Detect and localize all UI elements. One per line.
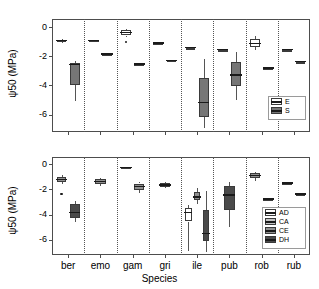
x-tick-mark xyxy=(100,255,101,258)
legend-bottom[interactable]: ADCACEDH xyxy=(262,207,306,249)
legend-row: AD xyxy=(263,208,305,217)
x-tick-mark xyxy=(133,132,134,135)
legend-key-swatch xyxy=(265,209,276,216)
median-line xyxy=(249,175,260,177)
median-line xyxy=(295,61,306,63)
legend-key-swatch xyxy=(271,98,282,105)
whisker-upper xyxy=(236,52,237,62)
x-tick-label: ber xyxy=(52,260,84,271)
whisker-lower xyxy=(75,85,76,102)
median-line xyxy=(295,193,306,195)
legend-label: E xyxy=(285,98,290,105)
legend-key-swatch xyxy=(265,227,276,234)
median-line xyxy=(134,63,145,65)
whisker-upper xyxy=(206,191,207,210)
median-line xyxy=(69,64,80,66)
median-line xyxy=(230,74,241,76)
y-tick-label: 0 xyxy=(22,22,47,32)
group-separator xyxy=(246,157,247,255)
x-tick-mark xyxy=(197,132,198,135)
median-line xyxy=(120,167,131,169)
x-tick-mark xyxy=(165,255,166,258)
x-tick-mark xyxy=(100,132,101,135)
median-line xyxy=(193,196,201,198)
whisker-lower xyxy=(229,210,230,227)
legend-top[interactable]: ES xyxy=(268,96,306,120)
boxplot-rect xyxy=(199,78,209,117)
group-separator xyxy=(181,157,182,255)
whisker-lower xyxy=(75,218,76,222)
panel-top: ψ50 (MPa) 0-2-4-6 ES xyxy=(0,0,319,145)
whisker-upper xyxy=(204,59,205,78)
median-line xyxy=(217,49,228,51)
y-axis-label-top: ψ50 (MPa) xyxy=(7,24,18,124)
legend-label: CE xyxy=(279,227,289,234)
x-tick-label: gri xyxy=(149,260,181,271)
median-line xyxy=(159,184,171,186)
median-line xyxy=(185,47,196,49)
legend-label: CA xyxy=(279,218,289,225)
median-line xyxy=(202,233,210,235)
x-tick-mark xyxy=(197,255,198,258)
whisker-lower xyxy=(62,182,63,185)
group-separator xyxy=(213,19,214,132)
x-tick-label: rub xyxy=(278,260,310,271)
panel-bottom: ψ50 (MPa) 0-2-4-6 beremogamgriilepubrobr… xyxy=(0,145,319,289)
whisker-lower xyxy=(255,47,256,50)
group-separator xyxy=(149,157,150,255)
x-tick-mark xyxy=(229,132,230,135)
median-line xyxy=(249,43,260,45)
x-tick-label: ile xyxy=(181,260,213,271)
y-axis-label-bottom: ψ50 (MPa) xyxy=(7,161,18,261)
y-tick-label: -6 xyxy=(22,234,47,244)
median-line xyxy=(120,32,131,34)
y-tick-label: -4 xyxy=(22,209,47,219)
x-tick-mark xyxy=(68,255,69,258)
whisker-lower xyxy=(62,42,63,43)
median-line xyxy=(56,40,67,42)
group-separator xyxy=(246,19,247,132)
legend-label: AD xyxy=(279,209,289,216)
median-line xyxy=(166,60,177,62)
y-tick-label: -2 xyxy=(22,51,47,61)
whisker-lower xyxy=(206,241,207,252)
boxplot-rect xyxy=(224,186,235,210)
boxplot-figure: ψ50 (MPa) 0-2-4-6 ES ψ50 (MPa) 0-2-4-6 b… xyxy=(0,0,319,289)
group-separator xyxy=(213,157,214,255)
whisker-lower xyxy=(126,36,127,38)
boxplot-rect xyxy=(70,63,80,85)
group-separator xyxy=(181,19,182,132)
y-tick-label: 0 xyxy=(22,159,47,169)
legend-row: E xyxy=(269,97,305,106)
legend-key-swatch xyxy=(271,107,282,114)
group-separator xyxy=(117,19,118,132)
whisker-lower xyxy=(204,117,205,128)
legend-row: DH xyxy=(263,235,305,244)
y-tick-label: -6 xyxy=(22,109,47,119)
median-line xyxy=(282,182,293,184)
median-line xyxy=(198,102,209,104)
x-tick-mark xyxy=(133,255,134,258)
legend-row: CE xyxy=(263,226,305,235)
legend-label: S xyxy=(285,107,290,114)
median-line xyxy=(134,186,145,188)
median-line xyxy=(94,181,106,183)
x-tick-mark xyxy=(294,132,295,135)
legend-row: S xyxy=(269,106,305,115)
x-tick-mark xyxy=(165,132,166,135)
legend-key-swatch xyxy=(265,218,276,225)
x-tick-label: emo xyxy=(84,260,116,271)
whisker-lower xyxy=(236,86,237,100)
group-separator xyxy=(84,157,85,255)
boxplot-rect xyxy=(203,210,210,242)
x-tick-mark xyxy=(68,132,69,135)
whisker-lower xyxy=(197,200,198,204)
legend-label: DH xyxy=(279,236,289,243)
y-tick-label: -4 xyxy=(22,80,47,90)
median-line xyxy=(263,67,274,69)
median-line xyxy=(101,53,112,55)
median-line xyxy=(223,194,235,196)
median-line xyxy=(263,198,274,200)
x-tick-label: rob xyxy=(246,260,278,271)
median-line xyxy=(88,40,99,42)
